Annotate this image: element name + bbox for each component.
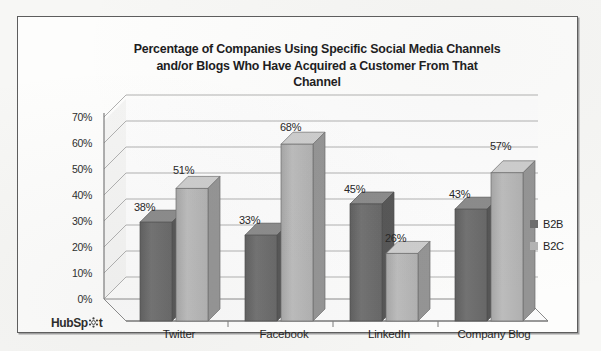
x-label-twitter: Twitter	[134, 328, 224, 340]
legend-swatch-b2b-icon	[530, 220, 538, 228]
hubspot-sprocket-icon	[88, 317, 99, 328]
data-label-facebook-b2b: 33%	[239, 214, 260, 226]
chart-frame: Percentage of Companies Using Specific S…	[17, 16, 578, 333]
chart-title: Percentage of Companies Using Specific S…	[52, 41, 582, 91]
legend-swatch-b2c-icon	[530, 242, 538, 250]
x-label-company-blog: Company Blog	[444, 328, 544, 340]
chart-title-line-1: Percentage of Companies Using Specific S…	[52, 41, 582, 58]
plot-area: 0% 10% 20% 30% 40% 50% 60% 70%	[48, 117, 596, 337]
bar-facebook-b2c[interactable]	[281, 132, 325, 321]
legend-label-b2b: B2B	[543, 218, 563, 230]
legend-label-b2c: B2C	[543, 240, 564, 252]
data-label-facebook-b2c: 68%	[280, 121, 301, 133]
hubspot-logo-text-before: HubSp	[51, 316, 88, 330]
data-label-company-blog-b2b: 43%	[449, 188, 470, 200]
chart-legend: B2B B2C	[530, 213, 590, 257]
data-label-linkedin-b2c: 26%	[385, 232, 406, 244]
data-label-company-blog-b2c: 57%	[490, 140, 511, 152]
x-label-linkedin: LinkedIn	[344, 328, 434, 340]
legend-item-b2c[interactable]: B2C	[530, 235, 590, 257]
chart-title-line-2: and/or Blogs Who Have Acquired a Custome…	[52, 58, 582, 75]
scanned-page: Percentage of Companies Using Specific S…	[0, 0, 601, 351]
bar-linkedin-b2c[interactable]	[386, 241, 430, 321]
bar-company-blog-b2c[interactable]	[491, 161, 535, 321]
data-label-linkedin-b2b: 45%	[344, 183, 365, 195]
data-label-twitter-b2b: 38%	[134, 201, 155, 213]
chart-canvas	[48, 117, 596, 337]
hubspot-logo-text-after: t	[99, 316, 103, 330]
x-axis-ticks	[228, 321, 438, 327]
x-label-facebook: Facebook	[239, 328, 329, 340]
legend-item-b2b[interactable]: B2B	[530, 213, 590, 235]
data-label-twitter-b2c: 51%	[173, 164, 194, 176]
bar-twitter-b2c[interactable]	[176, 176, 220, 321]
hubspot-logo: HubSp t	[51, 316, 102, 330]
chart-title-line-3: Channel	[52, 74, 582, 91]
